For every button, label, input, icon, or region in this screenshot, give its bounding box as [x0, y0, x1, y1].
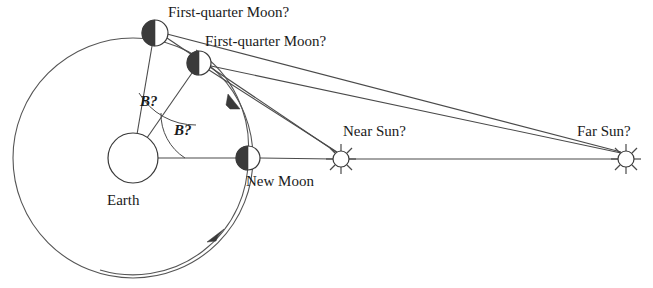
label-earth: Earth — [107, 192, 140, 208]
label-angle-outer: B? — [139, 93, 158, 109]
sun-far — [611, 144, 641, 174]
moon-outer-first-quarter — [142, 20, 168, 46]
sun-far-disc — [618, 151, 634, 167]
moon-new-shadow — [236, 146, 248, 170]
sun-near-disc — [333, 151, 349, 167]
moon-inner-shadow — [187, 51, 199, 75]
outer-orbit-arrowhead — [207, 229, 224, 242]
diagram-canvas: First-quarter Moon? First-quarter Moon? … — [0, 0, 653, 288]
line-new-moon-to-near-sun — [260, 158, 333, 159]
line-inner-moon-to-near-sun — [209, 70, 337, 152]
orbit-arrow-group — [207, 94, 240, 242]
label-near-sun: Near Sun? — [343, 123, 406, 139]
moon-inner-first-quarter — [187, 51, 211, 75]
sun-near — [326, 144, 356, 174]
inner-orbit-arrowhead — [226, 94, 240, 109]
astronomy-diagram: First-quarter Moon? First-quarter Moon? … — [0, 0, 653, 288]
moon-new — [236, 146, 260, 170]
label-first-quarter-moon-inner: First-quarter Moon? — [205, 33, 327, 49]
label-angle-inner: B? — [173, 122, 192, 138]
label-new-moon: New Moon — [246, 173, 314, 189]
label-far-sun: Far Sun? — [577, 123, 631, 139]
earth-body — [108, 133, 158, 183]
moon-outer-shadow — [142, 20, 155, 46]
label-first-quarter-moon-outer: First-quarter Moon? — [168, 4, 290, 20]
earth-circle — [108, 133, 158, 183]
